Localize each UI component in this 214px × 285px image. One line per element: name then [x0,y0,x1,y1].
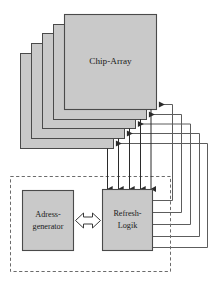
adress-generator-label-line1: Adress- [35,210,61,219]
bidirectional-bus-arrow [76,213,101,228]
refresh-line-to-layer-1 [153,105,173,201]
chip-array-label: Chip-Array [89,56,132,66]
refresh-logik-label-line2: Logik [118,221,138,230]
adress-generator-block: Adress- generator [23,191,74,251]
refresh-line-to-layer-2 [150,115,182,213]
refresh-logik-label-line1: Refresh- [113,209,141,218]
refresh-logik-block: Refresh- Logik [103,190,153,251]
adress-generator-box [23,191,74,251]
adress-generator-label-line2: generator [33,222,64,231]
chip-array-stack: Chip-Array [21,15,157,149]
diagram-canvas: Chip-Array Adress- generator [0,0,214,285]
chip-array-refresh-diagram: Chip-Array Adress- generator [0,0,214,285]
